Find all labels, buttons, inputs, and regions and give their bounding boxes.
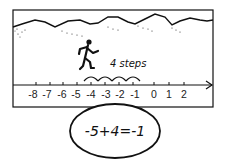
hill-shading-dots	[15, 25, 181, 37]
running-figure-icon	[79, 39, 98, 69]
tick-label: -2	[115, 88, 124, 100]
equation-text: -5+4=-1	[85, 123, 145, 139]
tick-label: -8	[28, 88, 37, 100]
number-line-diagram: 4 steps -8 -7 -6 -5 -4 -3 -2	[0, 0, 227, 159]
tick-label: 2	[181, 88, 187, 100]
tick-label: 0	[151, 88, 157, 100]
steps-caption: 4 steps	[110, 58, 146, 69]
tick-label: -3	[101, 88, 110, 100]
tick-label: -1	[130, 88, 139, 100]
step-arcs	[84, 77, 140, 81]
tick-label: -7	[42, 88, 51, 100]
tick-label: -6	[57, 88, 66, 100]
number-line-labels: -8 -7 -6 -5 -4 -3 -2 -1 0 1 2	[28, 88, 187, 100]
mountains-illustration	[13, 14, 213, 27]
tick-label: -5	[71, 88, 80, 100]
tick-label: -4	[86, 88, 95, 100]
tick-label: 1	[166, 88, 172, 100]
